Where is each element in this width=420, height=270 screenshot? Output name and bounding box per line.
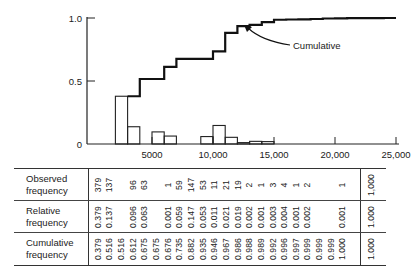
annotation-label: Cumulative (293, 40, 341, 51)
table-cell: 0.096 (127, 201, 139, 233)
table-cell: 4 (278, 169, 290, 201)
table-cell: 63 (139, 169, 151, 201)
histogram-bars (115, 96, 274, 144)
table-cell: 147 (185, 169, 197, 201)
table-cell: 0.999 (302, 233, 314, 265)
table-cell: 0.004 (278, 201, 290, 233)
table-cell: 0.021 (220, 201, 232, 233)
table-cell: 0.735 (174, 233, 186, 265)
table-cell: 137 (104, 169, 116, 201)
histogram-bar (164, 136, 176, 144)
table-row-observed: Observed frequency 379137966315914753112… (14, 169, 386, 201)
table-cell: 0.011 (209, 201, 221, 233)
histogram-bar (262, 142, 274, 144)
table-cell: 0.053 (197, 201, 209, 233)
table-cell (150, 169, 162, 201)
table-cell: 0.001 (162, 201, 174, 233)
table-cell: 0.137 (104, 201, 116, 233)
table-cell: 0.516 (104, 233, 116, 265)
table-cell: 96 (127, 169, 139, 201)
table-cell: 59 (174, 169, 186, 201)
table-cell (325, 201, 337, 233)
table-cell: 11 (209, 169, 221, 201)
histogram-bar (225, 137, 237, 144)
table-cell: 0.379 (92, 233, 104, 265)
table-cell: 0.999 (325, 233, 337, 265)
table-cell: 0.999 (313, 233, 325, 265)
table-cell (115, 169, 127, 201)
row-label-cumulative: Cumulative frequency (26, 237, 94, 261)
histogram-bar (152, 132, 164, 144)
table-row-relative: Relative frequency 0.3790.1370.0960.0630… (14, 201, 386, 233)
y-tick-label: 0 (77, 139, 82, 150)
table-cell: 0.992 (267, 233, 279, 265)
table-cell: 0.059 (174, 201, 186, 233)
table-cell: 0.002 (243, 201, 255, 233)
histogram-bar (213, 125, 225, 144)
cumulative-annotation: Cumulative (244, 25, 341, 51)
table-cell (325, 169, 337, 201)
x-tick-label: 15,000 (259, 149, 288, 160)
x-tick-label: 5000 (141, 149, 162, 160)
table-cell: 0.935 (197, 233, 209, 265)
table-cell (150, 201, 162, 233)
table-cell: 0.967 (220, 233, 232, 265)
table-cell: 3 (267, 169, 279, 201)
table-cell (313, 201, 325, 233)
table-cell: 379 (92, 169, 104, 201)
histogram-bar (250, 141, 262, 144)
table-cell: 0.002 (302, 201, 314, 233)
row-label-relative: Relative frequency (26, 205, 94, 229)
table-cell: 0.996 (278, 233, 290, 265)
table-cell: 0.001 (337, 201, 349, 233)
table-cell: 0.003 (267, 201, 279, 233)
table-cell: 0.379 (92, 201, 104, 233)
table-cell: 0.019 (232, 201, 244, 233)
table-cell (115, 201, 127, 233)
table-cell: 1 (290, 169, 302, 201)
histogram-bar (115, 96, 127, 144)
table-cell: 0.946 (209, 233, 221, 265)
table-cell: 1 (162, 169, 174, 201)
x-tick-label: 25,000 (381, 149, 410, 160)
table-cell: 0.989 (255, 233, 267, 265)
table-cell (313, 169, 325, 201)
y-tick-label: 0.5 (69, 76, 82, 87)
histogram-bar (128, 127, 140, 144)
table-cell: 1 (337, 169, 349, 201)
frequency-table: Observed frequency 379137966315914753112… (14, 168, 386, 266)
table-cell: 0.612 (127, 233, 139, 265)
table-cell: 1 (255, 169, 267, 201)
table-cell: 0.676 (162, 233, 174, 265)
table-cell: 0.675 (150, 233, 162, 265)
table-cell: 0.882 (185, 233, 197, 265)
table-cell: 0.997 (290, 233, 302, 265)
table-row-cumulative: Cumulative frequency 0.3790.5160.5160.61… (14, 233, 386, 265)
histogram-bar (237, 143, 249, 144)
table-cell: 53 (197, 169, 209, 201)
chart-axes: 00.51.0500010,00015,00020,00025,000 (69, 13, 411, 161)
table-total-cell: 1,000 (365, 169, 377, 201)
table-cell: 19 (232, 169, 244, 201)
table-cell: 1.000 (337, 233, 349, 265)
table-total-cell: 1.000 (365, 201, 377, 233)
row-label-observed: Observed frequency (26, 173, 94, 197)
frequency-chart: 00.51.0500010,00015,00020,00025,000 Cumu… (0, 0, 420, 160)
table-cell: 0.988 (243, 233, 255, 265)
table-cell: 0.001 (290, 201, 302, 233)
x-tick-label: 20,000 (320, 149, 349, 160)
y-tick-label: 1.0 (69, 13, 82, 24)
table-cell: 0.001 (255, 201, 267, 233)
table-cell: 0.675 (139, 233, 151, 265)
table-cell: 2 (243, 169, 255, 201)
annotation-arrow-icon (248, 28, 290, 45)
table-cell: 0.516 (115, 233, 127, 265)
x-tick-label: 10,000 (198, 149, 227, 160)
table-cell: 2 (302, 169, 314, 201)
table-cell: 0.063 (139, 201, 151, 233)
table-cell: 0.986 (232, 233, 244, 265)
table-cell: 21 (220, 169, 232, 201)
table-cell: 0.147 (185, 201, 197, 233)
cumulative-step-line (128, 18, 396, 96)
table-total-cell: 1.000 (365, 233, 377, 265)
